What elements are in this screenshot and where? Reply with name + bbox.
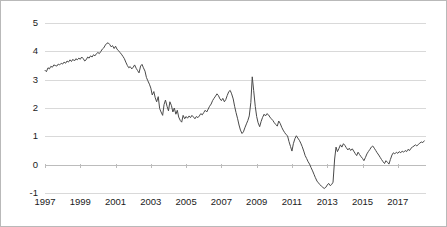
y-tick-label-2: 2 xyxy=(33,102,38,113)
y-axis-tick-labels: 543210-1 xyxy=(30,17,38,198)
x-tick-label-2007: 2007 xyxy=(211,196,232,207)
x-tick-label-2003: 2003 xyxy=(140,196,161,207)
x-axis-tick-labels: 1997199920012003200520072009201120132015… xyxy=(34,196,408,207)
x-tick-label-2015: 2015 xyxy=(352,196,373,207)
data-series-group xyxy=(45,43,424,189)
x-tick-label-2005: 2005 xyxy=(176,196,197,207)
y-tick-label-3: 3 xyxy=(33,74,38,85)
y-tick-label-1: 1 xyxy=(33,130,38,141)
x-tick-label-1999: 1999 xyxy=(70,196,91,207)
y-tick-label-4: 4 xyxy=(33,45,38,56)
x-tick-label-2013: 2013 xyxy=(317,196,338,207)
chart-frame: 543210-1 1997199920012003200520072009201… xyxy=(0,0,447,227)
y-tick-label-5: 5 xyxy=(33,17,38,28)
series-line-1 xyxy=(45,43,424,189)
x-tick-label-2017: 2017 xyxy=(387,196,408,207)
x-tick-label-2009: 2009 xyxy=(246,196,267,207)
y-tick-label-0: 0 xyxy=(33,159,38,170)
x-tick-label-1997: 1997 xyxy=(34,196,55,207)
chart-plot-area: 543210-1 1997199920012003200520072009201… xyxy=(1,1,447,227)
x-tick-label-2001: 2001 xyxy=(105,196,126,207)
line-chart: 543210-1 1997199920012003200520072009201… xyxy=(1,1,447,227)
x-tick-label-2011: 2011 xyxy=(282,196,302,207)
